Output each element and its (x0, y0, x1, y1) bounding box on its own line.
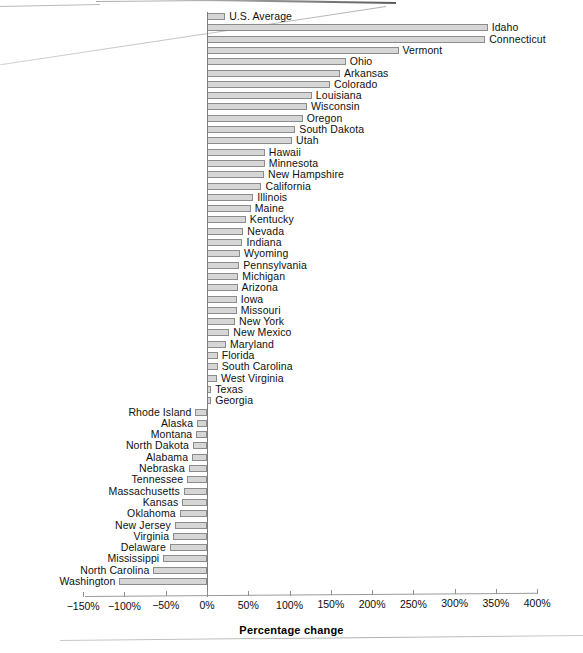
bar[interactable] (207, 126, 295, 133)
bar-row[interactable]: Oregon (0, 114, 583, 125)
bar[interactable] (207, 352, 218, 359)
bar-row[interactable]: Delaware (0, 543, 583, 554)
bar[interactable] (193, 442, 207, 449)
bar[interactable] (207, 329, 229, 336)
bar[interactable] (170, 544, 207, 551)
bar-row[interactable]: Alabama (0, 453, 583, 464)
bar[interactable] (119, 578, 207, 585)
bar-category-label: Hawaii (269, 146, 301, 158)
bar[interactable] (207, 375, 217, 382)
bar[interactable] (173, 533, 207, 540)
bar[interactable] (180, 510, 207, 517)
bar-row[interactable]: California (0, 182, 583, 193)
bar[interactable] (207, 284, 238, 291)
bar-row[interactable]: Oklahoma (0, 509, 583, 520)
bar[interactable] (207, 92, 312, 99)
bar[interactable] (207, 24, 488, 31)
bar-row[interactable]: Rhode Island (0, 408, 583, 419)
bar[interactable] (195, 409, 207, 416)
bar-category-label: Utah (296, 134, 319, 146)
x-axis-tick-label: 350% (482, 597, 509, 609)
bar-row[interactable]: Montana (0, 430, 583, 441)
bar[interactable] (207, 363, 218, 370)
bar[interactable] (207, 228, 243, 235)
bar-row[interactable]: Iowa (0, 295, 583, 306)
bar[interactable] (192, 454, 207, 461)
bar-row[interactable]: Missouri (0, 306, 583, 317)
bar[interactable] (207, 273, 238, 280)
bar-category-label: Illinois (257, 191, 287, 203)
bar-row[interactable]: Connecticut (0, 35, 583, 46)
x-axis-tick (207, 591, 208, 596)
bar-category-label: Maryland (230, 338, 274, 350)
bar[interactable] (207, 250, 240, 257)
bar[interactable] (207, 205, 251, 212)
bar-row[interactable]: Arizona (0, 283, 583, 294)
bar[interactable] (207, 183, 261, 190)
bar-row[interactable]: Louisiana (0, 91, 583, 102)
bar[interactable] (207, 341, 226, 348)
bar-category-label: New Jersey (115, 519, 171, 531)
bar[interactable] (207, 36, 485, 43)
bar-category-label: Arizona (242, 281, 278, 293)
bar-row[interactable]: Arkansas (0, 69, 583, 80)
bar[interactable] (207, 318, 235, 325)
bar-row[interactable]: Tennessee (0, 475, 583, 486)
bar-row[interactable]: Pennsylvania (0, 261, 583, 272)
bar-row[interactable]: Washington (0, 577, 583, 588)
bar[interactable] (207, 262, 239, 269)
bar-row[interactable]: Texas (0, 385, 583, 396)
bar[interactable] (153, 567, 207, 574)
bar-row[interactable]: New Jersey (0, 521, 583, 532)
bar[interactable] (184, 488, 207, 495)
bar-row[interactable]: Michigan (0, 272, 583, 283)
bar-row[interactable]: Massachusetts (0, 487, 583, 498)
bar-row[interactable]: Virginia (0, 532, 583, 543)
bar-row[interactable]: North Dakota (0, 441, 583, 452)
x-axis-tick-label: 250% (400, 598, 427, 610)
bar[interactable] (207, 13, 225, 20)
bar[interactable] (187, 476, 207, 483)
bar[interactable] (182, 499, 207, 506)
bar-row[interactable]: New Mexico (0, 328, 583, 339)
bar[interactable] (196, 431, 207, 438)
bar-row[interactable]: South Dakota (0, 125, 583, 136)
bar-category-label: Vermont (403, 44, 443, 56)
bar[interactable] (207, 137, 292, 144)
bar-row[interactable]: Alaska (0, 419, 583, 430)
bar-row[interactable]: Kansas (0, 498, 583, 509)
bar[interactable] (207, 296, 237, 303)
bar[interactable] (207, 171, 264, 178)
bar[interactable] (207, 115, 303, 122)
bar-row[interactable]: Georgia (0, 396, 583, 407)
bar-row[interactable]: Ohio (0, 57, 583, 68)
bar[interactable] (207, 58, 346, 65)
bar-row[interactable]: West Virginia (0, 374, 583, 385)
bar-row[interactable]: Nevada (0, 227, 583, 238)
bar[interactable] (207, 216, 246, 223)
bar[interactable] (207, 47, 399, 54)
bar[interactable] (207, 307, 237, 314)
bar[interactable] (207, 160, 265, 167)
bar-row[interactable]: Nebraska (0, 464, 583, 475)
bar-row[interactable]: Illinois (0, 193, 583, 204)
bar[interactable] (197, 420, 207, 427)
bar[interactable] (207, 103, 307, 110)
bar-category-label: Connecticut (489, 33, 546, 45)
bar-row[interactable]: Colorado (0, 80, 583, 91)
bar[interactable] (207, 70, 340, 77)
bar[interactable] (207, 194, 253, 201)
bar-row[interactable]: Kentucky (0, 215, 583, 226)
bar-row[interactable]: New York (0, 317, 583, 328)
bar-row[interactable]: Maryland (0, 340, 583, 351)
bar-row[interactable]: Vermont (0, 46, 583, 57)
bar[interactable] (163, 555, 207, 562)
bar-row[interactable]: Wisconsin (0, 102, 583, 113)
bar[interactable] (207, 81, 330, 88)
bar[interactable] (207, 239, 242, 246)
bar[interactable] (207, 149, 265, 156)
bar-row[interactable]: South Carolina (0, 362, 583, 373)
bar[interactable] (175, 522, 207, 529)
bar[interactable] (189, 465, 207, 472)
bar-row[interactable]: Indiana (0, 238, 583, 249)
